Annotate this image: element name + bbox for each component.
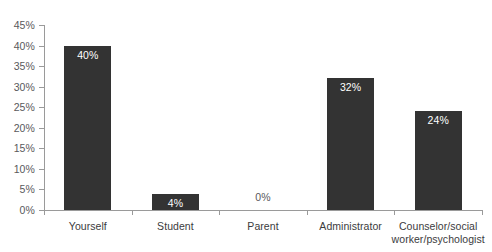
y-axis-tick-label: 25% — [0, 102, 35, 113]
y-axis-tick — [39, 189, 44, 190]
y-axis-line — [44, 25, 45, 211]
bar-chart: 0%5%10%15%20%25%30%35%40%45% 40%4%0%32%2… — [0, 0, 492, 252]
bar: 32% — [327, 78, 374, 210]
bar-value-label: 4% — [152, 198, 199, 209]
y-axis-tick — [39, 87, 44, 88]
y-axis-tick — [39, 107, 44, 108]
y-axis-tick-label: 10% — [0, 164, 35, 175]
x-axis-tick — [482, 210, 483, 215]
bar: 24% — [415, 111, 462, 210]
y-axis-tick — [39, 66, 44, 67]
y-axis-tick-label: 45% — [0, 20, 35, 31]
y-axis-tick — [39, 46, 44, 47]
y-axis-tick-label: 0% — [0, 205, 35, 216]
category-label: Yourself — [38, 220, 138, 233]
x-axis-line — [44, 210, 482, 211]
x-axis-tick — [132, 210, 133, 215]
y-axis-tick — [39, 148, 44, 149]
x-axis-tick — [44, 210, 45, 215]
x-axis-tick — [307, 210, 308, 215]
bar: 40% — [64, 46, 111, 210]
bar: 4% — [152, 194, 199, 210]
bar-value-label: 40% — [64, 50, 111, 61]
y-axis-tick-label: 15% — [0, 143, 35, 154]
y-axis-tick — [39, 25, 44, 26]
x-axis-tick — [219, 210, 220, 215]
y-axis-tick-label: 20% — [0, 123, 35, 134]
category-label: Parent — [213, 220, 313, 233]
category-label: Student — [126, 220, 226, 233]
y-axis-tick-label: 5% — [0, 184, 35, 195]
bar-value-label: 24% — [415, 115, 462, 126]
bar-value-label: 32% — [327, 82, 374, 93]
category-label: Counselor/social worker/psychologist — [388, 220, 488, 246]
bar-value-label: 0% — [233, 192, 293, 203]
x-axis-tick — [394, 210, 395, 215]
y-axis-tick-label: 40% — [0, 41, 35, 52]
category-label: Administrator — [301, 220, 401, 233]
y-axis-tick — [39, 128, 44, 129]
y-axis-tick — [39, 169, 44, 170]
y-axis-tick-label: 30% — [0, 82, 35, 93]
y-axis-tick-label: 35% — [0, 61, 35, 72]
